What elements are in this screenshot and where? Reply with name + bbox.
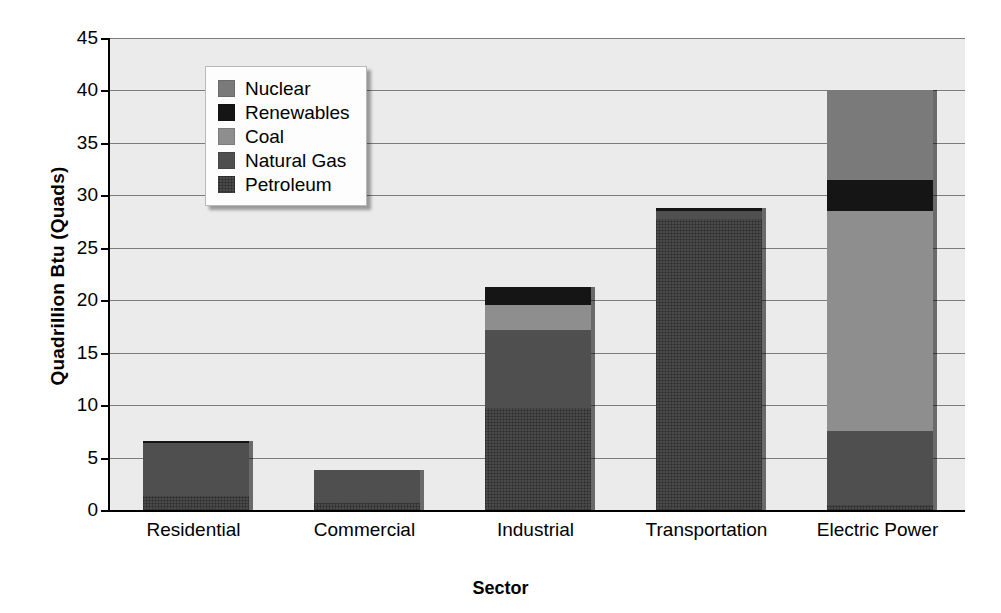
bar-transportation[interactable]: [656, 208, 762, 510]
bar-electric-power[interactable]: [827, 90, 933, 510]
legend-item[interactable]: Coal: [218, 124, 350, 148]
x-tick-label: Commercial: [265, 519, 465, 541]
segment-natural-gas[interactable]: [827, 431, 933, 504]
segment-natural-gas[interactable]: [656, 211, 762, 219]
legend-item[interactable]: Natural Gas: [218, 148, 350, 172]
segment-coal[interactable]: [827, 211, 933, 431]
x-axis-title: Sector: [0, 578, 1001, 599]
y-tick-label: 45: [60, 28, 98, 47]
legend-item-label: Natural Gas: [245, 151, 346, 170]
y-tick-mark: [101, 248, 110, 250]
segment-coal[interactable]: [485, 305, 591, 329]
y-tick-label: 40: [60, 80, 98, 99]
y-tick-mark: [101, 405, 110, 407]
y-tick-mark: [101, 90, 110, 92]
renewables-swatch: [218, 104, 235, 121]
segment-petroleum[interactable]: [827, 505, 933, 510]
legend-item[interactable]: Nuclear: [218, 76, 350, 100]
natural-gas-swatch: [218, 152, 235, 169]
bar-commercial[interactable]: [314, 470, 420, 510]
stacked-bar-chart: Quadrillion Btu (Quads) 4540353025201510…: [0, 0, 1001, 613]
segment-petroleum[interactable]: [314, 503, 420, 510]
x-tick-label: Industrial: [436, 519, 636, 541]
y-tick-mark: [101, 300, 110, 302]
bar-residential[interactable]: [143, 441, 249, 510]
y-tick-mark: [101, 38, 110, 40]
legend-item-label: Renewables: [245, 103, 350, 122]
segment-petroleum[interactable]: [656, 219, 762, 510]
y-tick-mark: [101, 143, 110, 145]
petroleum-swatch: [218, 176, 235, 193]
y-tick-mark: [101, 353, 110, 355]
x-tick-label: Residential: [94, 519, 294, 541]
y-tick-label: 35: [60, 133, 98, 152]
y-tick-label: 0: [60, 500, 98, 519]
x-tick-label: Transportation: [607, 519, 807, 541]
legend-item-label: Nuclear: [245, 79, 310, 98]
nuclear-swatch: [218, 80, 235, 97]
chart-legend: NuclearRenewablesCoalNatural GasPetroleu…: [205, 66, 367, 206]
segment-natural-gas[interactable]: [485, 330, 591, 409]
y-tick-mark: [101, 195, 110, 197]
y-tick-label: 15: [60, 343, 98, 362]
y-tick-label: 25: [60, 238, 98, 257]
segment-natural-gas[interactable]: [314, 470, 420, 503]
legend-item[interactable]: Petroleum: [218, 172, 350, 196]
y-tick-label: 20: [60, 290, 98, 309]
legend-item-label: Coal: [245, 127, 284, 146]
segment-renewables[interactable]: [827, 180, 933, 211]
segment-petroleum[interactable]: [485, 408, 591, 510]
segment-renewables[interactable]: [143, 441, 249, 443]
y-tick-label: 5: [60, 448, 98, 467]
legend-item-label: Petroleum: [245, 175, 332, 194]
y-tick-mark: [101, 458, 110, 460]
y-axis-title: Quadrillion Btu (Quads): [47, 46, 69, 506]
coal-swatch: [218, 128, 235, 145]
y-tick-label: 10: [60, 395, 98, 414]
segment-renewables[interactable]: [656, 208, 762, 211]
segment-renewables[interactable]: [485, 287, 591, 306]
segment-natural-gas[interactable]: [143, 443, 249, 496]
segment-nuclear[interactable]: [827, 90, 933, 179]
bar-industrial[interactable]: [485, 287, 591, 510]
x-tick-label: Electric Power: [778, 519, 978, 541]
legend-item[interactable]: Renewables: [218, 100, 350, 124]
y-tick-mark: [101, 510, 110, 512]
y-tick-label: 30: [60, 185, 98, 204]
segment-petroleum[interactable]: [143, 496, 249, 510]
